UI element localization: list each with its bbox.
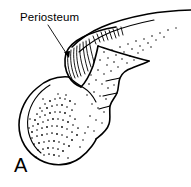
shaft-stipple-group: [86, 27, 176, 131]
periosteum-label: Periosteum: [20, 11, 79, 23]
periosteum-leader-line: [48, 25, 68, 56]
panel-label-a: A: [14, 154, 28, 176]
metaphysis-notch-lower: [99, 106, 110, 109]
bone-neck-line: [69, 77, 96, 102]
shaft-superior-contour: [72, 10, 191, 47]
bone-periosteum-diagram: Periosteum A: [0, 0, 191, 187]
shaft-inferior-contour: [98, 46, 149, 61]
periosteum-leader-group: [48, 25, 70, 58]
epiphysis-head-outline: [19, 77, 96, 165]
figure-panel-a: Periosteum A: [0, 0, 191, 187]
cortex-hatch-line: [105, 31, 108, 40]
bone-outline-group: [19, 10, 191, 165]
metaphysis-step-contour: [96, 61, 149, 139]
metaphysis-notch-upper: [106, 78, 120, 81]
